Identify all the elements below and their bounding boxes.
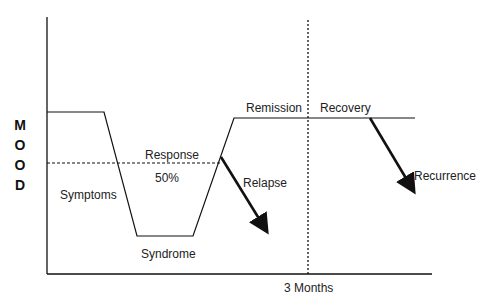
recurrence-arrow xyxy=(370,118,413,190)
mood-letter: D xyxy=(12,175,28,195)
mood-letter: O xyxy=(12,155,28,175)
label-recovery: Recovery xyxy=(320,102,371,114)
x-axis-label-3-months: 3 Months xyxy=(284,282,333,294)
label-syndrome: Syndrome xyxy=(141,248,196,260)
label-symptoms: Symptoms xyxy=(60,189,117,201)
label-recurrence: Recurrence xyxy=(414,170,476,182)
mood-letter: M xyxy=(12,115,28,135)
label-relapse: Relapse xyxy=(243,177,287,189)
diagram-canvas xyxy=(0,0,490,304)
relapse-arrow xyxy=(221,157,266,230)
mood-course-diagram: M O O D Symptoms Response 50% Syndrome R… xyxy=(0,0,490,304)
label-response-threshold: 50% xyxy=(155,172,179,184)
label-remission: Remission xyxy=(246,102,302,114)
label-response: Response xyxy=(145,149,199,161)
y-axis-label-mood: M O O D xyxy=(12,115,28,195)
mood-letter: O xyxy=(12,135,28,155)
